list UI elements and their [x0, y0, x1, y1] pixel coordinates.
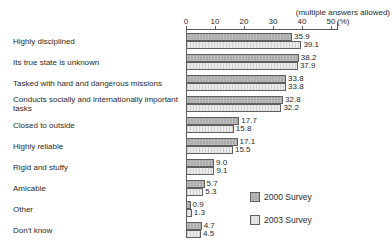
category-label: Highly disciplined [13, 37, 185, 46]
value-label: 4.5 [203, 230, 214, 238]
bar-2000 [186, 138, 238, 146]
value-label: 1.3 [194, 209, 205, 217]
bar-2000 [186, 180, 205, 188]
legend-item: 2003 Survey [250, 215, 312, 225]
x-tick-mark [215, 26, 216, 29]
legend-label: 2000 Survey [264, 192, 312, 202]
category-label: Its true state is unknown [13, 58, 185, 67]
bar-2003 [186, 146, 233, 154]
value-label: 9.1 [216, 167, 227, 175]
bar-2003 [186, 230, 201, 238]
legend-label: 2003 Survey [264, 215, 312, 225]
value-label: 33.8 [288, 83, 304, 91]
bar-2003 [186, 104, 281, 112]
bar-2000 [186, 117, 239, 125]
category-label: Highly reliable [13, 142, 185, 151]
x-axis-end-cap [337, 22, 338, 29]
value-label: 5.3 [205, 188, 216, 196]
x-tick-label: 20 [234, 17, 254, 26]
bar-2000 [186, 222, 202, 230]
value-label: 32.2 [283, 104, 299, 112]
x-tick-mark [273, 26, 274, 29]
bar-2003 [186, 188, 203, 196]
value-label: 15.5 [235, 146, 251, 154]
bar-2000 [186, 159, 214, 167]
category-label: Closed to outside [13, 121, 185, 130]
category-label: Rigid and stuffy [13, 163, 185, 172]
category-label: Don't know [13, 226, 185, 235]
bar-chart-figure: (multiple answers allowed) 01020304050(%… [0, 0, 392, 250]
category-label: Amicable [13, 184, 185, 193]
bar-2003 [186, 62, 298, 70]
bar-2003 [186, 41, 301, 49]
legend-swatch [250, 192, 260, 202]
bar-2003 [186, 125, 234, 133]
bar-2000 [186, 75, 286, 83]
annotation-multiple-answers: (multiple answers allowed) [296, 8, 390, 17]
bar-2000 [186, 33, 292, 41]
x-tick-label: 40 [292, 17, 312, 26]
category-label: Conducts socially and internationally im… [13, 95, 185, 113]
x-tick-label: 30 [263, 17, 283, 26]
bar-2003 [186, 167, 214, 175]
x-axis-line [186, 29, 338, 30]
bar-2000 [186, 54, 299, 62]
bar-2000 [186, 96, 283, 104]
value-label: 15.8 [236, 125, 252, 133]
legend-item: 2000 Survey [250, 192, 312, 202]
category-label: Tasked with hard and dangerous missions [13, 79, 185, 88]
x-tick-label: 10 [205, 17, 225, 26]
x-tick-label: 0 [176, 17, 196, 26]
x-tick-mark [244, 26, 245, 29]
value-label: 39.1 [303, 41, 319, 49]
category-label: Other [13, 205, 185, 214]
bar-2000 [186, 201, 191, 209]
x-axis-unit-label: (%) [337, 17, 349, 26]
bar-2003 [186, 83, 286, 91]
x-tick-mark [331, 26, 332, 29]
bar-2003 [186, 209, 192, 217]
x-tick-mark [302, 26, 303, 29]
value-label: 37.9 [300, 62, 316, 70]
legend-swatch [250, 215, 260, 225]
